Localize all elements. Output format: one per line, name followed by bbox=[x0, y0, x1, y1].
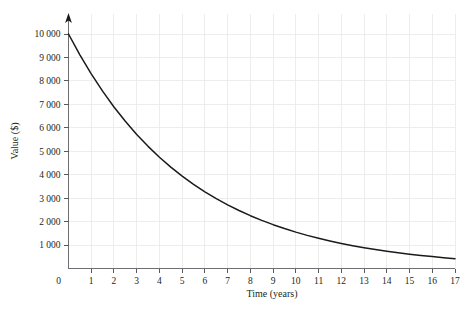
x-tick-label-10: 10 bbox=[291, 276, 301, 286]
x-tick-label-2: 2 bbox=[112, 276, 117, 286]
x-tick-label-14: 14 bbox=[382, 276, 392, 286]
x-tick-label-7: 7 bbox=[225, 276, 230, 286]
y-tick-marks bbox=[64, 34, 69, 245]
x-tick-label-17: 17 bbox=[450, 276, 460, 286]
x-tick-label-12: 12 bbox=[337, 276, 347, 286]
x-tick-label-9: 9 bbox=[271, 276, 276, 286]
y-tick-label-8000: 8 000 bbox=[39, 76, 61, 86]
exponential-decay-chart: 01234567891011121314151617 1 0002 0003 0… bbox=[0, 0, 463, 311]
y-tick-label-3000: 3 000 bbox=[39, 194, 61, 204]
y-tick-label-4000: 4 000 bbox=[39, 170, 61, 180]
value-decay-curve bbox=[69, 34, 456, 259]
y-tick-label-1000: 1 000 bbox=[39, 240, 61, 250]
x-tick-label-8: 8 bbox=[248, 276, 253, 286]
x-tick-marks bbox=[91, 269, 455, 274]
x-tick-labels: 01234567891011121314151617 bbox=[56, 276, 460, 286]
horizontal-gridlines bbox=[69, 34, 456, 245]
x-tick-label-4: 4 bbox=[157, 276, 162, 286]
y-tick-label-6000: 6 000 bbox=[39, 123, 61, 133]
y-tick-labels: 1 0002 0003 0004 0005 0006 0007 0008 000… bbox=[34, 29, 60, 250]
y-tick-label-7000: 7 000 bbox=[39, 100, 61, 110]
x-tick-label-6: 6 bbox=[203, 276, 208, 286]
x-tick-label-13: 13 bbox=[359, 276, 369, 286]
vertical-gridlines bbox=[91, 14, 455, 269]
x-tick-label-3: 3 bbox=[134, 276, 139, 286]
y-axis-title: Value ($) bbox=[9, 123, 21, 160]
y-tick-label-2000: 2 000 bbox=[39, 217, 61, 227]
x-tick-label-1: 1 bbox=[89, 276, 94, 286]
chart-figure: 01234567891011121314151617 1 0002 0003 0… bbox=[0, 0, 463, 311]
x-tick-label-5: 5 bbox=[180, 276, 185, 286]
x-axis-title: Time (years) bbox=[246, 288, 297, 300]
x-tick-label-15: 15 bbox=[405, 276, 415, 286]
y-tick-label-10000: 10 000 bbox=[34, 29, 60, 39]
x-tick-label-16: 16 bbox=[428, 276, 438, 286]
y-tick-label-5000: 5 000 bbox=[39, 147, 61, 157]
x-tick-label-0: 0 bbox=[56, 276, 61, 286]
y-tick-label-9000: 9 000 bbox=[39, 53, 61, 63]
x-tick-label-11: 11 bbox=[314, 276, 323, 286]
